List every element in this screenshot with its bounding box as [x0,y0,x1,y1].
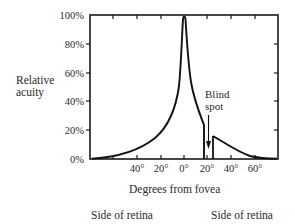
annotation-line2: spot [205,100,229,112]
plot-frame [90,15,278,159]
y-tick-label: 20% [44,125,84,136]
acuity-curve-temporal [213,136,277,159]
acuity-curve-main [92,16,204,159]
y-axis-label-line1: Relative [16,74,54,86]
annotation-line1: Blind [205,88,229,100]
footer-label-left: Side of retina [91,210,153,221]
x-axis-label: Degrees from fovea [129,184,220,195]
x-tick-label: 60° [240,163,270,174]
y-axis-label: Relative acuity [16,74,54,98]
blind-spot-arrow-head [206,141,211,149]
y-tick-label: 0% [44,154,84,165]
y-tick-label: 80% [44,39,84,50]
y-axis-label-line2: acuity [16,86,54,98]
blind-spot-annotation: Blind spot [205,88,229,112]
y-tick-label: 100% [44,10,84,21]
footer-label-right: Side of retina [211,210,273,221]
